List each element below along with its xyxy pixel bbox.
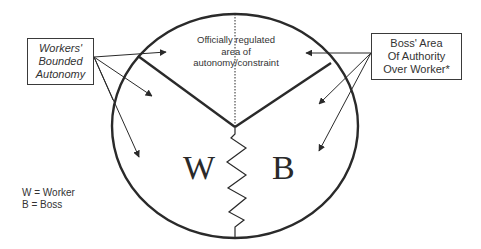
- workers-box-line-1: Workers': [36, 42, 86, 55]
- boss-authority-box: Boss' Area Of Authority Over Worker*: [371, 33, 462, 80]
- regulated-area-line-3: autonomy/constraint: [178, 57, 294, 69]
- worker-letter: W: [183, 149, 215, 187]
- boss-box-line-3: Over Worker*: [383, 63, 449, 76]
- right-boundary-line: [235, 63, 331, 127]
- regulated-area-line-1: Officially regulated: [178, 34, 294, 46]
- legend-boss: B = Boss: [22, 199, 75, 211]
- left-arrow-1: [94, 52, 166, 57]
- legend: W = Worker B = Boss: [22, 187, 75, 211]
- boss-letter: B: [272, 149, 295, 187]
- boss-box-line-2: Of Authority: [383, 50, 449, 63]
- workers-box-line-2: Bounded: [36, 55, 86, 68]
- right-arrow-3: [319, 53, 371, 151]
- boss-box-line-1: Boss' Area: [383, 37, 449, 50]
- right-arrow-2: [319, 53, 371, 104]
- zigzag-divider: [227, 127, 246, 238]
- regulated-area-label: Officially regulated area of autonomy/co…: [178, 34, 294, 69]
- regulated-area-line-2: area of: [178, 46, 294, 58]
- workers-box-line-3: Autonomy: [36, 68, 86, 81]
- workers-autonomy-box: Workers' Bounded Autonomy: [27, 38, 94, 85]
- legend-worker: W = Worker: [22, 187, 75, 199]
